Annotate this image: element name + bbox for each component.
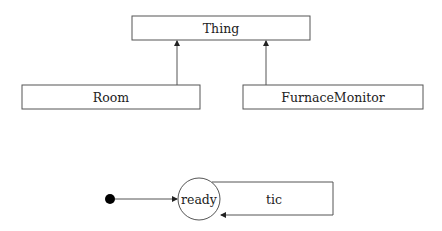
initial-state-dot [105,194,115,204]
class-thing-label: Thing [203,21,239,36]
class-room-label: Room [93,90,129,105]
transition-tic-label: tic [266,192,282,207]
state-ready-label: ready [181,192,218,207]
class-furnacemonitor-label: FurnaceMonitor [281,90,385,105]
class-furnacemonitor[interactable]: FurnaceMonitor [243,85,423,109]
class-room[interactable]: Room [22,85,200,109]
diagram-canvas: Thing Room FurnaceMonitor ready tic [0,0,442,231]
state-ready[interactable]: ready [178,178,220,220]
class-thing[interactable]: Thing [132,16,310,40]
transition-tic[interactable]: tic [212,182,333,215]
